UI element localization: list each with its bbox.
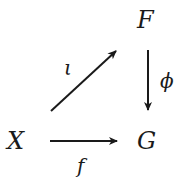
node-F: F: [137, 8, 154, 32]
label-phi: ϕ: [160, 71, 174, 91]
node-G: G: [137, 129, 156, 153]
label-iota: ι: [64, 58, 72, 78]
commutative-diagram: F X G ι ϕ f: [0, 0, 187, 192]
label-f: f: [77, 156, 84, 176]
arrows-layer: [0, 0, 187, 192]
arrow-iota: [51, 51, 116, 111]
node-X: X: [7, 129, 24, 153]
